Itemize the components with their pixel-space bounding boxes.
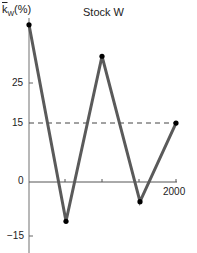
data-point (99, 54, 104, 59)
y-axis-label: kW(%) (2, 3, 31, 17)
data-point (173, 120, 178, 125)
y-tick-label-minus15: −15 (7, 230, 24, 241)
y-tick-label-25: 25 (12, 77, 23, 88)
data-point (137, 199, 142, 204)
data-point (63, 219, 68, 224)
data-point (26, 22, 31, 27)
chart-plot (0, 0, 197, 253)
x-tick-label-2000: 2000 (163, 186, 185, 197)
y-tick-label-15: 15 (12, 117, 23, 128)
y-tick-label-0: 0 (18, 175, 24, 186)
chart-title: Stock W (83, 6, 124, 18)
